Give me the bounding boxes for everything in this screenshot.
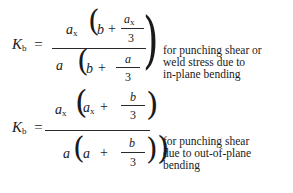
small-frac-den: 3 [128, 32, 134, 44]
small-frac-num: b [129, 137, 135, 149]
note-line: weld stress due to [163, 56, 262, 68]
small-fraction-line [121, 28, 144, 29]
right-paren-icon: ) [143, 8, 159, 70]
x-subscript: x [62, 108, 67, 118]
x-subscript: x [130, 17, 135, 27]
small-fraction-line [116, 67, 140, 68]
small-frac-den: 3 [125, 71, 131, 83]
right-paren-icon: ) [146, 88, 158, 120]
small-frac-num: b [130, 91, 136, 103]
numerator-factor: ax [55, 103, 67, 117]
inner-term: b [97, 23, 104, 37]
a-symbol: a [83, 100, 90, 115]
numerator-factor: ax [66, 23, 78, 37]
note-line: due to out-of-plane [163, 147, 251, 159]
inner-term: ax [83, 101, 95, 115]
small-frac-den: 3 [130, 156, 136, 168]
formula-2-lhs: Kb = [12, 120, 43, 135]
a-symbol: a [66, 22, 73, 37]
small-frac-num: ax [124, 13, 135, 25]
denominator-factor: a [56, 59, 63, 73]
x-subscript: x [90, 106, 95, 116]
plus-sign: + [100, 100, 108, 114]
inner-term: a [83, 147, 90, 161]
inner-term: b [86, 62, 93, 76]
formula-2-note: for punching shear due to out-of-plane b… [163, 135, 251, 171]
small-frac-num: a [125, 53, 131, 65]
note-line: bending [163, 159, 251, 171]
small-fraction-line [121, 105, 145, 106]
plus-sign: + [108, 22, 116, 36]
a-symbol: a [55, 102, 62, 117]
main-fraction-line [52, 48, 146, 49]
small-frac-den: 3 [130, 109, 136, 121]
denominator-factor: a [63, 147, 70, 161]
k-symbol: K [12, 36, 22, 52]
k-subscript: b [22, 126, 27, 136]
formula-1-note: for punching shear or weld stress due to… [163, 44, 262, 80]
equals-sign: = [34, 36, 42, 52]
plus-sign: + [100, 146, 108, 160]
x-subscript: x [73, 28, 78, 38]
note-line: in-plane bending [163, 68, 262, 80]
right-paren-icon: ) [146, 134, 158, 164]
k-subscript: b [22, 43, 27, 53]
note-line: for punching shear [163, 135, 251, 147]
note-line: for punching shear or [163, 44, 262, 56]
formula-1-lhs: Kb = [12, 37, 43, 52]
main-fraction-line [45, 130, 150, 131]
small-fraction-line [121, 152, 145, 153]
plus-sign: + [98, 61, 106, 75]
k-symbol: K [12, 119, 22, 135]
equals-sign: = [34, 119, 42, 135]
